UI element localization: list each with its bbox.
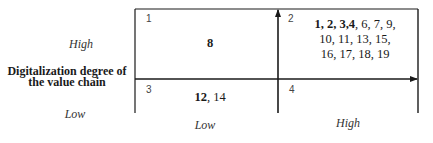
x-axis-low-label: Low [170, 118, 240, 133]
quadrant-1-content: 8 [180, 36, 240, 51]
y-axis-low-label: Low [40, 107, 110, 122]
quadrant-1-bold-items: 8 [207, 36, 213, 50]
quadrant-2-number: 2 [288, 13, 294, 24]
quadrant-2-items-line3: 16, 17, 18, 19 [300, 47, 410, 62]
quadrant-4-number: 4 [289, 84, 295, 95]
quadrant-2-items-line1: , 6, 7, 9, [355, 17, 396, 31]
quadrant-3-content: 12, 14 [175, 90, 245, 105]
quadrant-1-number: 1 [146, 13, 152, 24]
y-axis-title: Digitalization degree of the value chain [0, 66, 134, 88]
quadrant-2-bold-items: 1, 2, 3,4 [314, 17, 355, 31]
y-axis-high-label: High [46, 37, 116, 52]
y-axis-title-line2: the value chain [0, 77, 134, 88]
x-axis-high-label: High [313, 116, 383, 131]
quadrant-3-items: , 14 [207, 90, 226, 104]
quadrant-3-bold-items: 12 [194, 90, 207, 104]
quadrant-3-number: 3 [146, 84, 152, 95]
quadrant-2-content: 1, 2, 3,4, 6, 7, 9, 10, 11, 13, 15, 16, … [300, 17, 410, 62]
quadrant-2-items-line2: 10, 11, 13, 15, [300, 32, 410, 47]
